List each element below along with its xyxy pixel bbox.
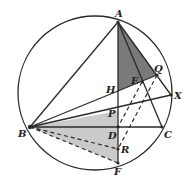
point-e-dot	[141, 81, 144, 84]
label-h: H	[105, 84, 116, 95]
label-a: A	[114, 8, 123, 19]
label-p: P	[107, 108, 116, 119]
segment-ab	[30, 22, 118, 127]
point-r-dot	[116, 147, 119, 150]
label-q: Q	[154, 63, 163, 74]
label-b: B	[17, 128, 26, 139]
label-f: F	[113, 166, 122, 177]
shaded-triangle-bpf	[30, 111, 118, 163]
label-x: X	[173, 90, 183, 101]
point-f-dot	[116, 161, 119, 164]
geometry-diagram: A B C D E F H P Q R X	[0, 0, 194, 189]
point-x-dot	[169, 93, 172, 96]
point-d-dot	[116, 125, 119, 128]
label-d: D	[107, 130, 117, 141]
point-b-dot	[28, 125, 32, 129]
point-a-dot	[116, 20, 119, 23]
label-c: C	[164, 129, 172, 140]
label-e: E	[130, 75, 139, 86]
label-r: R	[120, 144, 129, 155]
